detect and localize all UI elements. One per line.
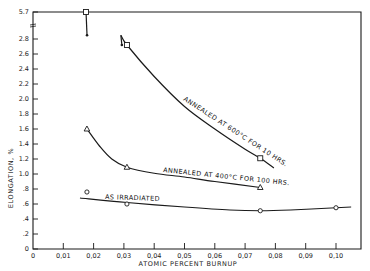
y-tick-label: 5.7: [19, 8, 29, 16]
series-curves: [80, 12, 351, 211]
y-tick-label: .6: [23, 200, 29, 208]
y-tick-label: 2.8: [19, 35, 29, 43]
square-marker: [124, 43, 129, 48]
elongation-vs-burnup-chart: 0.2.4.6.81.01.21.41.61.82.02.22.42.62.85…: [0, 0, 370, 271]
x-tick-label: 0,07: [238, 252, 252, 260]
x-tick-label: 0,03: [117, 252, 131, 260]
y-tick-label: .8: [23, 185, 29, 193]
y-tick-label: 1.8: [19, 110, 29, 118]
y-axis-ticks: 0.2.4.6.81.01.21.41.61.82.02.22.42.62.85…: [19, 8, 38, 253]
circle-marker: [258, 209, 262, 213]
y-tick-label: 2.2: [19, 80, 29, 88]
x-tick-label: 0,10: [329, 252, 343, 260]
x-tick-label: 0,01: [56, 252, 70, 260]
y-tick-label: 1.6: [19, 125, 29, 133]
y-tick-label: .2: [23, 230, 29, 238]
circle-marker: [85, 190, 89, 194]
x-axis-title: ATOMIC PERCENT BURNUP: [139, 260, 238, 268]
y-tick-label: .4: [23, 215, 29, 223]
label-annealed-600c: ANNEALED AT 600°C FOR 10 HRS.: [182, 95, 289, 169]
y-tick-label: 1.0: [19, 170, 29, 178]
y-axis-title: ELONGATION, %: [7, 148, 15, 208]
y-tick-label: 0: [25, 245, 29, 253]
x-tick-label: 0,09: [298, 252, 312, 260]
circle-marker: [334, 206, 338, 210]
circle-marker: [125, 202, 129, 206]
x-tick-label: 0,05: [177, 252, 191, 260]
x-tick-label: 0,06: [208, 252, 222, 260]
x-tick-label: 0,04: [147, 252, 161, 260]
y-tick-label: 2.6: [19, 50, 29, 58]
x-tick-label: 0: [31, 252, 35, 260]
y-tick-label: 2.4: [19, 65, 29, 73]
y-tick-label: 2.0: [19, 95, 29, 103]
x-tick-label: 0,08: [268, 252, 282, 260]
y-tick-label: 1.2: [19, 155, 29, 163]
square-marker: [258, 156, 263, 161]
square-marker: [84, 10, 89, 15]
plot-frame: [30, 12, 361, 249]
x-tick-label: 0,02: [86, 252, 100, 260]
x-axis-ticks: 00,010,020,030,040,050,060,070,080,090,1…: [31, 243, 343, 260]
triangle-marker: [84, 126, 90, 131]
y-tick-label: 1.4: [19, 140, 29, 148]
